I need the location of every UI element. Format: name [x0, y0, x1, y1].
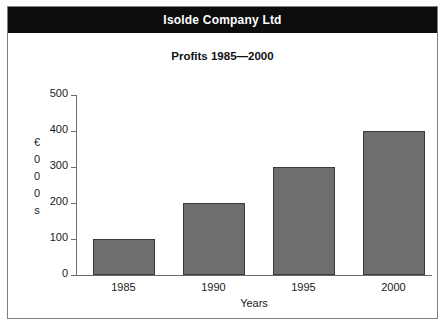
bar-slot-1995: [273, 89, 335, 275]
y-tick-mark-0: [71, 275, 76, 276]
y-tick-label-2: 200: [50, 195, 68, 207]
y-axis-title-char-4: s: [28, 202, 46, 219]
y-tick-label-4: 400: [50, 123, 68, 135]
y-tick-mark-5: [71, 95, 76, 96]
bar-1985[interactable]: [93, 239, 155, 275]
x-axis-title: Years: [76, 297, 432, 309]
y-tick-label-0: 0: [62, 267, 68, 279]
y-tick-label-1: 100: [50, 231, 68, 243]
y-tick-mark-2: [71, 203, 76, 204]
plot-area: 0 100 200 300 400 500: [76, 89, 432, 275]
bar-series: [77, 89, 432, 275]
x-axis-line: [76, 275, 432, 276]
y-tick-mark-1: [71, 239, 76, 240]
bar-2000[interactable]: [363, 131, 425, 275]
y-tick-label-5: 500: [50, 87, 68, 99]
x-tick-label-2000: 2000: [362, 281, 425, 293]
company-name: Isolde Company Ltd: [163, 13, 281, 27]
y-tick-mark-4: [71, 131, 76, 132]
x-tick-label-1985: 1985: [92, 281, 155, 293]
y-axis-title-char-3: 0: [28, 185, 46, 202]
y-tick-label-3: 300: [50, 159, 68, 171]
chart-screenshot: Isolde Company Ltd Profits 1985—2000 € 0…: [0, 0, 445, 326]
bar-slot-1990: [183, 89, 245, 275]
chart-frame: Isolde Company Ltd Profits 1985—2000 € 0…: [7, 6, 438, 319]
y-axis-title: € 0 0 0 s: [28, 134, 46, 219]
bar-slot-1985: [93, 89, 155, 275]
bar-slot-2000: [363, 89, 425, 275]
x-tick-label-1995: 1995: [272, 281, 335, 293]
company-banner: Isolde Company Ltd: [8, 7, 437, 33]
y-axis-title-char-1: 0: [28, 151, 46, 168]
y-axis-title-char-0: €: [28, 134, 46, 151]
bar-1995[interactable]: [273, 167, 335, 275]
bar-1990[interactable]: [183, 203, 245, 275]
x-tick-label-1990: 1990: [182, 281, 245, 293]
y-axis-title-char-2: 0: [28, 168, 46, 185]
chart-title: Profits 1985—2000: [8, 50, 437, 62]
y-tick-mark-3: [71, 167, 76, 168]
